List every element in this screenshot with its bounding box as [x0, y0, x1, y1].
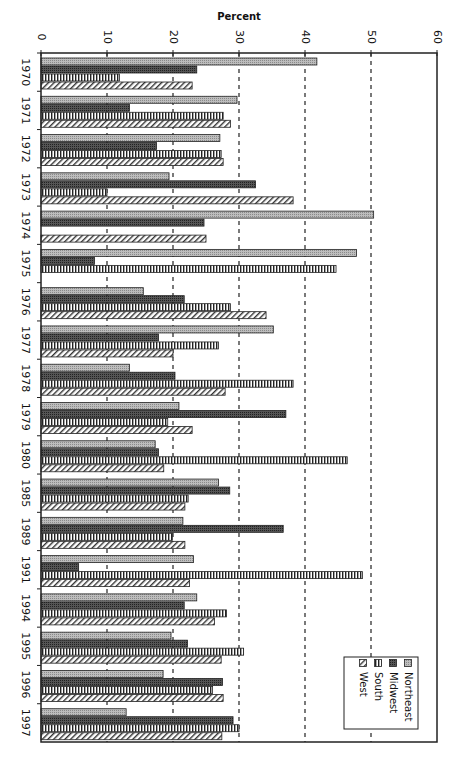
category-label: 1985 — [19, 479, 32, 507]
legend-label: South — [373, 672, 384, 701]
bar-northeast — [41, 364, 129, 371]
bar-midwest — [41, 104, 129, 111]
bar-midwest — [41, 296, 184, 303]
category-label: 1995 — [19, 632, 32, 660]
value-axis-ticks: 0102030405060 — [35, 30, 444, 56]
bar-midwest — [41, 334, 158, 341]
bar-northeast — [41, 58, 317, 65]
bar-south — [41, 189, 107, 196]
bar-northeast — [41, 709, 126, 716]
bar-south — [41, 533, 172, 540]
bar-chart: Percent 0102030405060 197019711972197319… — [0, 0, 456, 766]
bar-midwest — [41, 602, 184, 609]
bar-northeast — [41, 594, 197, 601]
bar-west — [41, 197, 293, 204]
category-label: 1972 — [19, 135, 32, 163]
bar-south — [41, 151, 221, 158]
bar-northeast — [41, 670, 163, 677]
bar-west — [41, 235, 206, 242]
category-label: 1976 — [19, 288, 32, 316]
bar-northeast — [41, 326, 273, 333]
bar-midwest — [41, 640, 188, 647]
bar-northeast — [41, 249, 356, 256]
bar-midwest — [41, 449, 158, 456]
bar-west — [41, 694, 223, 701]
bar-west — [41, 541, 185, 548]
tick-label: 60 — [431, 30, 444, 44]
bar-northeast — [41, 441, 155, 448]
bar-south — [41, 572, 362, 579]
bar-south — [41, 112, 223, 119]
bar-south — [41, 419, 168, 426]
tick-label: 50 — [365, 30, 378, 44]
bar-northeast — [41, 211, 374, 218]
legend-label: Midwest — [388, 672, 399, 713]
legend-swatch-icon — [405, 660, 412, 667]
bar-midwest — [41, 564, 79, 571]
bar-west — [41, 503, 185, 510]
bar-northeast — [41, 556, 193, 563]
bar-south — [41, 457, 347, 464]
bar-northeast — [41, 96, 237, 103]
bar-west — [41, 656, 221, 663]
bar-west — [41, 350, 173, 357]
bar-northeast — [41, 135, 220, 142]
category-label: 1975 — [19, 250, 32, 278]
category-label: 1980 — [19, 441, 32, 469]
bar-midwest — [41, 219, 204, 226]
bar-midwest — [41, 372, 175, 379]
legend-swatch-icon — [375, 660, 382, 667]
bar-midwest — [41, 678, 223, 685]
category-label: 1978 — [19, 364, 32, 392]
tick-label: 0 — [35, 34, 48, 41]
bar-west — [41, 580, 190, 587]
bar-series — [41, 58, 374, 740]
bar-midwest — [41, 143, 157, 150]
tick-label: 30 — [233, 30, 246, 44]
legend: NortheastMidwestSouthWest — [344, 657, 418, 729]
bar-midwest — [41, 411, 286, 418]
bar-west — [41, 427, 192, 434]
category-label: 1994 — [19, 594, 32, 622]
axis-title: Percent — [217, 11, 261, 22]
bar-south — [41, 725, 239, 732]
bar-south — [41, 342, 219, 349]
category-label: 1997 — [19, 709, 32, 737]
bar-northeast — [41, 403, 179, 410]
bar-west — [41, 159, 223, 166]
bar-midwest — [41, 525, 283, 532]
bar-midwest — [41, 181, 256, 188]
bar-south — [41, 265, 336, 272]
bar-west — [41, 618, 215, 625]
category-label: 1979 — [19, 403, 32, 431]
category-label: 1991 — [19, 556, 32, 584]
category-axis-labels: 1970197119721973197419751976197719781979… — [19, 53, 41, 737]
bar-south — [41, 686, 213, 693]
bar-midwest — [41, 487, 230, 494]
bar-midwest — [41, 717, 233, 724]
bar-south — [41, 610, 226, 617]
bar-west — [41, 120, 230, 127]
bar-northeast — [41, 517, 183, 524]
bar-south — [41, 74, 120, 81]
legend-label: West — [358, 672, 369, 697]
bar-south — [41, 304, 230, 311]
bar-midwest — [41, 257, 94, 264]
bar-west — [41, 465, 164, 472]
category-label: 1996 — [19, 671, 32, 699]
tick-label: 40 — [299, 30, 312, 44]
bar-west — [41, 733, 222, 740]
bar-northeast — [41, 479, 219, 486]
legend-swatch-icon — [360, 660, 367, 667]
bar-northeast — [41, 173, 169, 180]
bar-northeast — [41, 632, 171, 639]
legend-swatch-icon — [390, 660, 397, 667]
bar-west — [41, 388, 225, 395]
bar-south — [41, 648, 244, 655]
category-label: 1971 — [19, 96, 32, 124]
bar-northeast — [41, 288, 143, 295]
category-label: 1974 — [19, 211, 32, 239]
bar-midwest — [41, 66, 197, 73]
category-label: 1989 — [19, 517, 32, 545]
bar-south — [41, 495, 188, 502]
